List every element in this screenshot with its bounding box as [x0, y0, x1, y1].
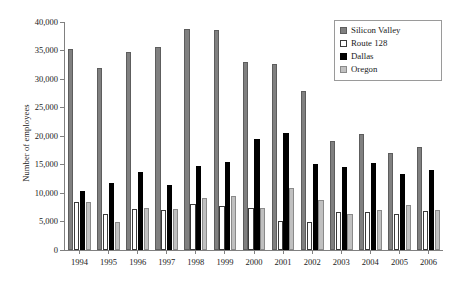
bar[interactable]	[231, 196, 236, 250]
legend-item-label: Silicon Valley	[351, 24, 400, 37]
y-axis-tick-label: 0	[54, 245, 58, 256]
bar[interactable]	[103, 214, 108, 250]
x-axis-tick-mark	[195, 250, 196, 254]
bar[interactable]	[435, 210, 440, 250]
bar[interactable]	[272, 64, 277, 250]
y-axis-title: Number of employees	[17, 0, 35, 286]
x-axis-tick-label: 1999	[210, 256, 239, 268]
bar[interactable]	[132, 209, 137, 250]
bar[interactable]	[184, 29, 189, 250]
bar[interactable]	[190, 204, 195, 250]
x-axis-tick-label: 2003	[327, 256, 356, 268]
bar[interactable]	[225, 162, 230, 250]
bar-group	[123, 22, 152, 250]
y-axis-tick-mark	[60, 22, 64, 23]
bar-group	[298, 22, 327, 250]
bar[interactable]	[109, 183, 114, 250]
bar[interactable]	[347, 214, 352, 250]
y-axis-tick-label: 30,000	[35, 74, 58, 85]
y-axis-tick-mark	[60, 107, 64, 108]
bar[interactable]	[301, 91, 306, 250]
bar-group	[239, 22, 268, 250]
bar-group	[65, 22, 94, 250]
bar[interactable]	[80, 191, 85, 250]
bar[interactable]	[138, 172, 143, 250]
bar[interactable]	[388, 153, 393, 250]
bar[interactable]	[173, 209, 178, 250]
bar[interactable]	[260, 208, 265, 250]
bar[interactable]	[196, 166, 201, 250]
y-axis-tick-mark	[60, 136, 64, 137]
bar[interactable]	[417, 147, 422, 250]
bar[interactable]	[167, 185, 172, 250]
bar[interactable]	[400, 174, 405, 250]
y-axis-tick-mark	[60, 250, 64, 251]
bar[interactable]	[155, 47, 160, 250]
x-axis-tick-mark	[166, 250, 167, 254]
y-axis-tick-mark	[60, 193, 64, 194]
bar[interactable]	[318, 200, 323, 250]
bar[interactable]	[278, 221, 283, 250]
x-axis-tick-mark	[254, 250, 255, 254]
bar[interactable]	[423, 211, 428, 250]
bar[interactable]	[126, 52, 131, 250]
bar[interactable]	[330, 141, 335, 250]
bar[interactable]	[377, 210, 382, 250]
x-axis-tick-label: 2006	[414, 256, 443, 268]
bar[interactable]	[406, 205, 411, 250]
legend-item[interactable]: Route 128	[340, 37, 437, 50]
bar[interactable]	[342, 167, 347, 250]
bar[interactable]	[86, 202, 91, 250]
x-axis-tick-label: 2000	[239, 256, 268, 268]
x-axis-tick-mark	[283, 250, 284, 254]
y-axis-tick: 30,000	[2, 74, 64, 85]
bar[interactable]	[359, 134, 364, 250]
bar[interactable]	[161, 210, 166, 250]
bar[interactable]	[371, 163, 376, 250]
bar[interactable]	[68, 49, 73, 250]
bar[interactable]	[214, 30, 219, 250]
bar[interactable]	[97, 68, 102, 250]
y-axis-tick-label: 35,000	[35, 45, 58, 56]
bar[interactable]	[74, 202, 79, 250]
bar-group	[181, 22, 210, 250]
bar[interactable]	[115, 222, 120, 250]
legend-item[interactable]: Oregon	[340, 63, 437, 76]
bar[interactable]	[336, 212, 341, 250]
legend-swatch-icon	[340, 53, 347, 60]
y-axis-tick-label: 20,000	[35, 131, 58, 142]
bar[interactable]	[429, 170, 434, 250]
x-axis-tick-label: 1998	[181, 256, 210, 268]
legend-item[interactable]: Silicon Valley	[340, 24, 437, 37]
bar[interactable]	[289, 188, 294, 250]
x-axis-tick-mark	[341, 250, 342, 254]
bar[interactable]	[313, 164, 318, 250]
y-axis-tick-mark	[60, 164, 64, 165]
y-axis-tick-mark	[60, 50, 64, 51]
bar[interactable]	[144, 208, 149, 250]
x-axis-tick-label: 1997	[152, 256, 181, 268]
bar[interactable]	[283, 133, 288, 250]
legend-item-label: Route 128	[351, 37, 387, 50]
legend-item-label: Dallas	[351, 50, 373, 63]
legend-item-label: Oregon	[351, 63, 377, 76]
bar[interactable]	[365, 212, 370, 250]
y-axis-tick: 40,000	[2, 17, 64, 28]
bar[interactable]	[243, 62, 248, 250]
bar[interactable]	[202, 198, 207, 250]
bar[interactable]	[219, 206, 224, 250]
x-axis-tick-label: 2001	[269, 256, 298, 268]
x-axis-tick-mark	[108, 250, 109, 254]
y-axis-tick: 10,000	[2, 188, 64, 199]
x-axis-tick-mark	[399, 250, 400, 254]
bar[interactable]	[307, 222, 312, 251]
legend-item[interactable]: Dallas	[340, 50, 437, 63]
bar[interactable]	[248, 208, 253, 250]
bar[interactable]	[254, 139, 259, 250]
bar[interactable]	[394, 214, 399, 250]
x-axis-tick-label: 1996	[123, 256, 152, 268]
x-axis-tick-labels: 1994199519961997199819992000200120022003…	[65, 256, 443, 268]
x-axis-tick-label: 1994	[65, 256, 94, 268]
x-axis-tick-mark	[224, 250, 225, 254]
bar-group	[152, 22, 181, 250]
